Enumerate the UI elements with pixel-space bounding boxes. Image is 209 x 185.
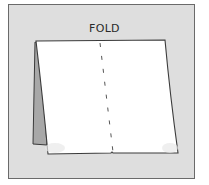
folded-sheet-illustration: [0, 0, 209, 185]
front-sheet: [36, 40, 178, 154]
